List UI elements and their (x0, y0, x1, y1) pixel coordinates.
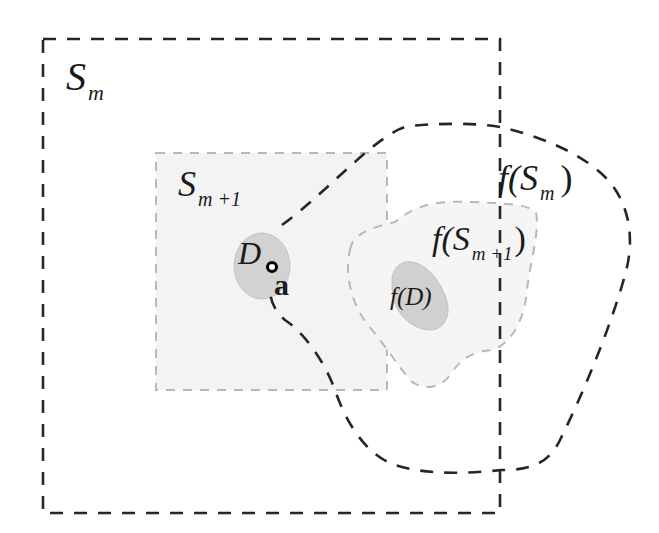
label-f-s-m: f(Sm) (498, 158, 572, 204)
label-s-m: Sm (66, 54, 104, 105)
label-point-a: a (274, 268, 289, 301)
diagram-canvas: Sm Sm +1 D a f(Sm) f(Sm +1) f(D) (0, 0, 659, 533)
label-f-d: f(D) (390, 283, 432, 311)
label-d: D (237, 235, 261, 271)
